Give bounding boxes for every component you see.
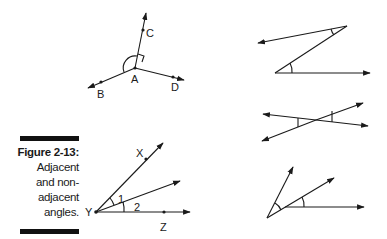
angle-arc-left xyxy=(275,203,281,210)
angle-arc-1 xyxy=(110,198,114,205)
angle-arc-top xyxy=(331,29,334,35)
label-y: Y xyxy=(85,206,93,218)
right-angle-mark xyxy=(138,54,144,62)
label-z: Z xyxy=(160,221,167,233)
ray-ab xyxy=(88,68,135,88)
ray-ad xyxy=(135,68,184,80)
angle-arc-bottom xyxy=(290,63,292,73)
label-angle-1: 1 xyxy=(118,193,124,205)
label-angle-2: 2 xyxy=(134,201,140,213)
figure-non-adjacent xyxy=(267,167,364,218)
label-b: B xyxy=(97,88,104,100)
label-a: A xyxy=(131,73,139,85)
figure-crossing-lines xyxy=(262,103,368,141)
label-x: X xyxy=(136,147,144,159)
label-c: C xyxy=(146,27,154,39)
angle-arc-right xyxy=(302,197,304,207)
figure-z-shape xyxy=(258,26,370,73)
ray-yx xyxy=(96,143,163,212)
label-d: D xyxy=(171,81,179,93)
ray-ac xyxy=(135,13,146,68)
geometry-figures: C A B D X Y 1 2 Z xyxy=(0,0,387,239)
